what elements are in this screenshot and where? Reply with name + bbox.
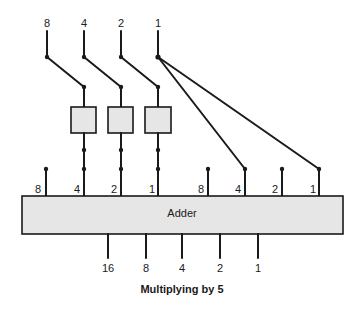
shift-box-3 [145,107,171,133]
input-label-8: 8 [44,17,50,29]
input-label-1: 1 [155,17,161,29]
junction-dot [119,167,123,171]
junction-dot [156,148,160,152]
adder-label: Adder [167,207,197,219]
adder-stubs [44,167,321,196]
junction-dot [206,167,210,171]
junction-dot [280,167,284,171]
input-labels: 8 4 2 1 [44,17,161,29]
shift-diagonals [47,57,160,107]
diagram-caption: Multiplying by 5 [140,283,223,295]
adder-in-left-4: 4 [74,183,80,195]
output-label-16: 16 [102,262,114,274]
shift-box-2 [108,107,133,133]
adder-input-labels-right: 8 4 2 1 [198,183,316,195]
junction-dot [119,148,123,152]
adder-in-right-4: 4 [235,183,241,195]
junction-dot [243,167,247,171]
fanout-wire-to-1 [158,57,319,169]
adder-in-right-2: 2 [272,183,278,195]
adder-in-right-8: 8 [198,183,204,195]
junction-dot [82,148,86,152]
input-label-4: 4 [81,17,87,29]
adder-in-right-1: 1 [310,183,316,195]
adder-input-labels-left: 8 4 2 1 [35,183,155,195]
output-label-4: 4 [179,262,185,274]
output-label-1: 1 [255,262,261,274]
junction-dot [44,167,48,171]
shift-box-1 [71,107,96,133]
diagonal-wire-4 [84,57,121,87]
junction-dot [317,167,321,171]
diagonal-wire-8 [47,57,84,87]
input-label-2: 2 [118,17,124,29]
shift-boxes [71,107,171,133]
junction-dot [82,167,86,171]
adder-in-left-2: 2 [111,183,117,195]
output-labels: 16 8 4 2 1 [102,262,261,274]
output-wires [108,234,258,258]
input-wires [45,31,161,60]
output-label-2: 2 [217,262,223,274]
output-label-8: 8 [143,262,149,274]
input-1-fanout [158,57,319,169]
junction-dot [156,167,160,171]
adder-in-left-1: 1 [149,183,155,195]
diagonal-wire-2 [121,57,158,87]
multiply-by-5-diagram: 8 4 2 1 [0,0,363,311]
adder-in-left-8: 8 [35,183,41,195]
